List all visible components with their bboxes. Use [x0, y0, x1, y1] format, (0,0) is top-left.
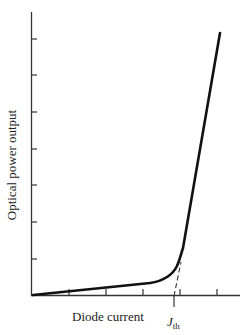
- threshold-label-sub: th: [173, 321, 180, 331]
- x-axis-label: Diode current: [72, 309, 144, 325]
- y-axis-label: Optical power output: [4, 110, 20, 220]
- threshold-label: Jth: [167, 314, 180, 331]
- power-current-curve: [33, 33, 220, 295]
- chart-canvas: [0, 0, 247, 335]
